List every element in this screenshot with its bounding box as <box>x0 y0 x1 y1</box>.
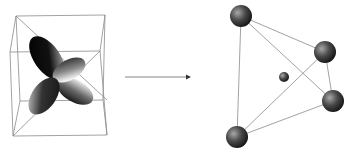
vertex-sphere-right-lower <box>322 90 344 112</box>
center-sphere <box>279 72 289 82</box>
vertex-sphere-bottom-left <box>226 126 248 148</box>
cube-edge <box>103 100 107 135</box>
vertex-sphere-right-upper <box>314 41 336 63</box>
tetrahedron-edge <box>237 52 325 137</box>
tetrahedron <box>226 5 344 148</box>
orbital-lobes <box>22 30 98 120</box>
diagram-canvas <box>0 0 355 157</box>
tetrahedron-edge <box>237 16 241 137</box>
tetrahedron-edge <box>237 101 333 137</box>
tetrahedron-edge <box>241 16 325 52</box>
cube-edge <box>13 101 20 136</box>
orbital-cube <box>10 15 107 136</box>
cube-edge <box>10 16 16 52</box>
vertex-sphere-top <box>230 5 252 27</box>
